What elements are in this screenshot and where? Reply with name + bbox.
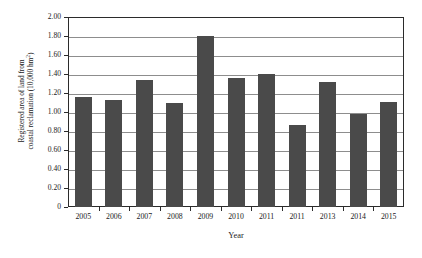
x-axis-tick-mark bbox=[312, 207, 313, 211]
x-axis-tick-mark bbox=[129, 207, 130, 211]
gridline bbox=[69, 170, 403, 171]
y-axis-tick-label: 1.20 bbox=[48, 89, 64, 97]
x-axis-tick-mark bbox=[343, 207, 344, 211]
plot-area bbox=[68, 17, 404, 207]
y-axis-tick-label: 2.00 bbox=[48, 13, 64, 21]
gridline bbox=[69, 56, 403, 57]
gridline bbox=[69, 189, 403, 190]
y-axis-tick-label: 1.60 bbox=[48, 51, 64, 59]
x-axis-tick-mark bbox=[282, 207, 283, 211]
y-axis-tick-label: 0.60 bbox=[48, 146, 64, 154]
x-axis-tick-mark bbox=[190, 207, 191, 211]
x-axis-labels: 2005200620072008200920102011201120132014… bbox=[68, 212, 404, 224]
y-axis-title-line-2: coastal reclamation (10,000 hm2) bbox=[26, 53, 35, 150]
y-axis-tick-label: 1.80 bbox=[48, 32, 64, 40]
y-axis-title-line-2-text: coastal reclamation (10,000 hm bbox=[26, 58, 35, 150]
gridline bbox=[69, 75, 403, 76]
x-axis-tick-label: 2015 bbox=[369, 212, 409, 222]
x-axis-tick-mark bbox=[251, 207, 252, 211]
x-axis-tick-mark bbox=[221, 207, 222, 211]
y-axis-unit-superscript: 2 bbox=[25, 55, 31, 58]
y-axis-tick-label: 1.00 bbox=[48, 108, 64, 116]
gridline bbox=[69, 151, 403, 152]
gridline bbox=[69, 113, 403, 114]
x-axis-tick-mark bbox=[160, 207, 161, 211]
gridline bbox=[69, 94, 403, 95]
x-axis-tick-mark bbox=[99, 207, 100, 211]
y-axis-tick-mark bbox=[64, 93, 68, 94]
y-axis-tick-mark bbox=[64, 188, 68, 189]
y-axis-tick-mark bbox=[64, 55, 68, 56]
bar-chart: Registered area of land from coastal rec… bbox=[0, 0, 422, 258]
y-axis-tick-mark bbox=[64, 150, 68, 151]
y-axis-tick-mark bbox=[64, 17, 68, 18]
y-axis-tick-mark bbox=[64, 112, 68, 113]
y-axis-tick-mark bbox=[64, 131, 68, 132]
y-axis-tick-label: 0.80 bbox=[48, 127, 64, 135]
x-axis-tick-mark bbox=[373, 207, 374, 211]
y-axis-tick-label: 0.40 bbox=[48, 165, 64, 173]
gridline bbox=[69, 132, 403, 133]
y-axis-tick-label: 0 bbox=[57, 203, 64, 211]
y-axis-title-tail: ) bbox=[26, 53, 35, 55]
x-axis-ticks bbox=[68, 207, 404, 211]
gridline bbox=[69, 37, 403, 38]
y-axis-tick-mark bbox=[64, 74, 68, 75]
y-axis-tick-mark bbox=[64, 169, 68, 170]
gridlines bbox=[69, 18, 403, 206]
y-axis-title-line-1: Registered area of land from bbox=[17, 59, 26, 142]
y-axis-tick-label: 0.20 bbox=[48, 184, 64, 192]
y-axis-tick-mark bbox=[64, 36, 68, 37]
y-axis-tick-label: 1.40 bbox=[48, 70, 64, 78]
x-axis-title: Year bbox=[68, 230, 404, 241]
